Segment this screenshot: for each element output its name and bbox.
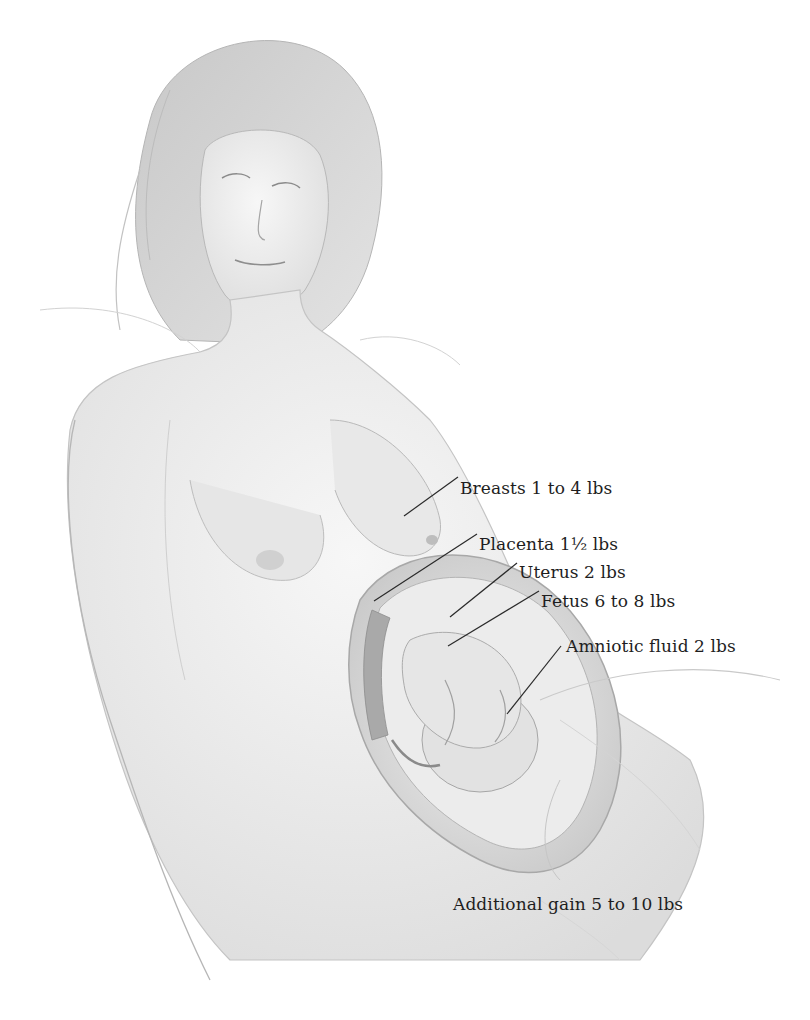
- label-placenta: Placenta 1½ lbs: [479, 536, 618, 553]
- leader-line-placenta: [374, 534, 477, 601]
- leader-lines: [0, 0, 810, 1020]
- label-fetus: Fetus 6 to 8 lbs: [541, 593, 675, 610]
- leader-line-uterus: [450, 563, 517, 617]
- leader-line-amniotic-fluid: [507, 646, 561, 714]
- label-uterus: Uterus 2 lbs: [519, 564, 626, 581]
- label-additional-gain: Additional gain 5 to 10 lbs: [453, 896, 683, 913]
- label-amniotic-fluid: Amniotic fluid 2 lbs: [566, 638, 736, 655]
- label-breasts: Breasts 1 to 4 lbs: [460, 480, 612, 497]
- pregnancy-weight-gain-diagram: Breasts 1 to 4 lbs Placenta 1½ lbs Uteru…: [0, 0, 810, 1020]
- leader-line-breasts: [404, 477, 458, 516]
- leader-line-fetus: [448, 591, 539, 646]
